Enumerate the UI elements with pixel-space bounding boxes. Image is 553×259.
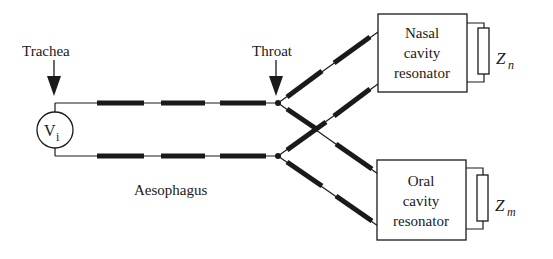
oral-impedance-subscript: m bbox=[507, 205, 516, 219]
nasal-resistor-icon bbox=[478, 28, 489, 74]
voltage-source: V i bbox=[37, 103, 73, 156]
oral-line1: Oral bbox=[408, 173, 435, 189]
nasal-line1: Nasal bbox=[405, 25, 439, 41]
throat-arrow-icon bbox=[269, 60, 283, 96]
throat-label: Throat bbox=[252, 43, 293, 59]
branch-bottom-to-oral bbox=[278, 156, 378, 226]
source-label: V bbox=[44, 122, 56, 139]
vocal-tract-circuit-diagram: Trachea Throat V i bbox=[0, 0, 553, 259]
oral-resistor-icon bbox=[477, 175, 488, 221]
oral-impedance: Z m bbox=[466, 168, 516, 229]
nasal-impedance-subscript: n bbox=[508, 58, 514, 72]
aesophagus-label: Aesophagus bbox=[134, 182, 207, 198]
nasal-impedance: Z n bbox=[467, 23, 514, 82]
nasal-line2: cavity bbox=[404, 45, 441, 61]
trachea-arrow-icon bbox=[47, 60, 61, 96]
source-subscript: i bbox=[56, 130, 60, 144]
oral-line2: cavity bbox=[403, 193, 440, 209]
oral-line3: resonator bbox=[393, 213, 449, 229]
nasal-line3: resonator bbox=[394, 65, 450, 81]
nasal-impedance-label: Z bbox=[496, 49, 506, 68]
trachea-label: Trachea bbox=[22, 43, 70, 59]
nasal-cavity-resonator: Nasal cavity resonator bbox=[378, 14, 467, 92]
oral-impedance-label: Z bbox=[495, 196, 505, 215]
oral-cavity-resonator: Oral cavity resonator bbox=[377, 160, 466, 240]
